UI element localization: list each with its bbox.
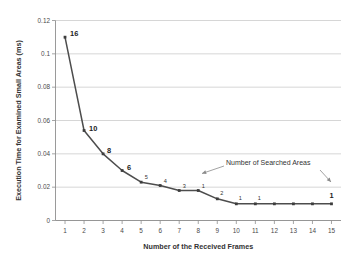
x-tick-label-0: 1	[63, 227, 67, 234]
data-point-9	[216, 197, 219, 200]
point-label-3: 8	[107, 146, 111, 155]
x-tick-label-14: 15	[328, 227, 336, 234]
point-label-7: 3	[183, 183, 186, 189]
x-tick-label-13: 14	[309, 227, 317, 234]
point-label-9: 2	[220, 190, 223, 196]
x-tick-label-6: 7	[177, 227, 181, 234]
data-point-labels: 16108654312111	[70, 29, 334, 201]
point-label-8: 1	[202, 183, 205, 189]
data-point-10	[235, 202, 238, 205]
x-tick-label-3: 4	[120, 227, 124, 234]
data-point-15	[330, 202, 333, 205]
annotation-label: Number of Searched Areas	[226, 159, 311, 166]
data-point-8	[197, 189, 200, 192]
x-tick-label-5: 6	[158, 227, 162, 234]
x-axis-title: Number of the Received Frames	[143, 242, 253, 251]
data-point-3	[102, 152, 105, 155]
data-point-4	[121, 169, 124, 172]
x-tick-labels: 123456789101112131415	[63, 227, 335, 234]
y-tick-label-0: 0	[46, 217, 50, 224]
data-point-6	[159, 184, 162, 187]
data-point-2	[83, 129, 86, 132]
chart-container: 00.020.040.060.080.10.12 123456789101112…	[0, 0, 355, 267]
x-tick-label-10: 11	[252, 227, 259, 234]
point-label-1: 16	[70, 29, 78, 38]
x-tick-label-12: 13	[290, 227, 298, 234]
data-point-5	[140, 181, 143, 184]
data-point-14	[311, 202, 314, 205]
point-label-10: 1	[239, 195, 242, 201]
annotation-arrow-left-head	[202, 170, 207, 174]
data-point-11	[254, 202, 257, 205]
data-point-12	[273, 202, 276, 205]
y-tick-label-3: 0.06	[38, 117, 51, 124]
annotation-arrows	[202, 166, 331, 182]
x-tick-label-2: 3	[101, 227, 105, 234]
y-tick-label-6: 0.12	[38, 17, 51, 24]
x-tick-label-7: 8	[196, 227, 200, 234]
x-tick-label-4: 5	[139, 227, 143, 234]
y-tick-marks	[52, 21, 56, 221]
y-tick-label-4: 0.08	[38, 83, 51, 90]
y-tick-labels: 00.020.040.060.080.10.12	[38, 17, 51, 224]
x-tick-marks	[65, 221, 331, 225]
point-label-2: 10	[89, 124, 97, 133]
x-tick-label-8: 9	[216, 227, 220, 234]
point-label-6: 4	[164, 178, 167, 184]
data-point-1	[64, 36, 67, 39]
point-label-11: 1	[258, 195, 261, 201]
y-tick-label-5: 0.1	[41, 50, 50, 57]
annotation-group: Number of Searched Areas	[202, 159, 331, 182]
data-point-13	[292, 202, 295, 205]
point-label-4: 6	[127, 163, 131, 172]
point-label-5: 5	[145, 174, 148, 180]
x-tick-label-9: 10	[233, 227, 241, 234]
point-label-15: 1	[329, 191, 333, 200]
y-tick-label-1: 0.02	[38, 183, 51, 190]
y-tick-label-2: 0.04	[38, 150, 51, 157]
x-tick-label-11: 12	[271, 227, 279, 234]
data-point-7	[178, 189, 181, 192]
y-axis-title: Execution Time for Examined Small Areas …	[14, 40, 23, 201]
x-tick-label-1: 2	[82, 227, 86, 234]
line-chart: 00.020.040.060.080.10.12 123456789101112…	[0, 0, 355, 267]
